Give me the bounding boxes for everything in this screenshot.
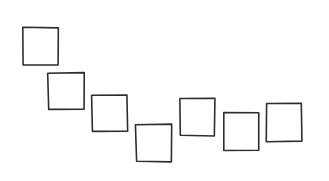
sketch-canvas: [0, 0, 329, 181]
square-shape-7: [266, 103, 302, 141]
square-shape-5: [180, 98, 215, 136]
squares-drawing: [0, 0, 329, 181]
square-shape-4: [135, 124, 171, 162]
square-shape-2: [48, 73, 85, 110]
square-shape-3: [92, 95, 128, 131]
square-shape-6: [224, 112, 259, 150]
square-shape-1: [23, 27, 59, 65]
